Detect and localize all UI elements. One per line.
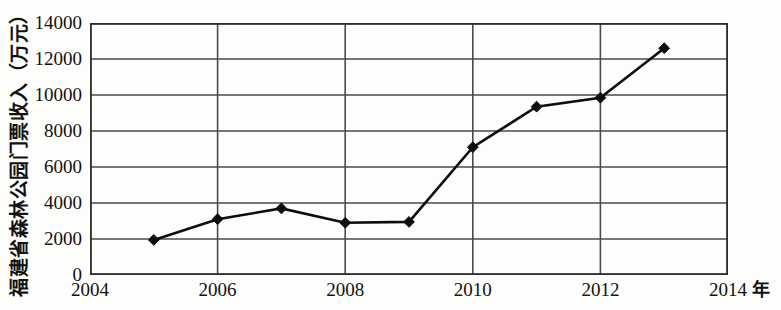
x-axis-unit-label: 年 [752, 279, 770, 301]
x-axis-tick-label: 2006 [199, 279, 237, 301]
y-axis-tick-label: 2000 [44, 229, 82, 248]
line-chart-svg: 2005: 19502006: 31002007: 37002008: 2900… [90, 23, 728, 275]
y-axis-tick-label: 4000 [44, 193, 82, 212]
y-axis-tick-labels: 02000400060008000100001200014000 [30, 0, 86, 310]
y-axis-tick-label: 12000 [35, 49, 83, 68]
x-axis-tick-label: 2008 [326, 279, 364, 301]
chart-container: 福建省森林公园门票收入（万元） 020004000600080001000012… [0, 0, 781, 310]
x-axis-tick-label: 2004 [71, 279, 109, 301]
x-axis-tick-label: 2014 [709, 279, 747, 301]
x-axis-tick-labels: 200420062008201020122014 [0, 279, 781, 307]
plot-area: 2005: 19502006: 31002007: 37002008: 2900… [90, 23, 728, 275]
x-axis-tick-label: 2012 [581, 279, 619, 301]
y-axis-title: 福建省森林公园门票收入（万元） [0, 0, 34, 300]
plot-background [90, 23, 728, 275]
y-axis-tick-label: 14000 [35, 13, 83, 32]
y-axis-tick-label: 8000 [44, 121, 82, 140]
y-axis-title-text: 福建省森林公园门票收入（万元） [4, 4, 31, 297]
y-axis-tick-label: 6000 [44, 157, 82, 176]
y-axis-tick-label: 10000 [35, 85, 83, 104]
x-axis-tick-label: 2010 [454, 279, 492, 301]
